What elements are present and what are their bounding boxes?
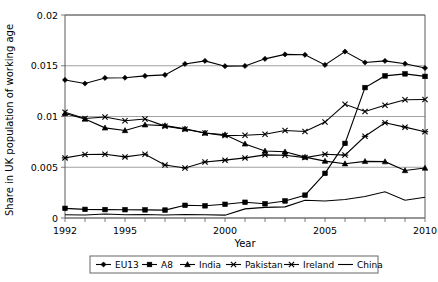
data-point-marker [322, 119, 327, 124]
y-tick-label: 0.015 [31, 60, 58, 71]
x-axis-title: Year [233, 238, 256, 249]
y-axis-tick-labels: 00.0050.010.0150.02 [31, 10, 58, 224]
data-point-marker [243, 200, 248, 205]
data-point-marker [323, 171, 328, 176]
legend-label: EU13 [115, 260, 139, 270]
data-point-marker [122, 154, 128, 159]
data-point-marker [222, 64, 227, 69]
data-point-marker [343, 141, 348, 146]
data-point-marker [383, 74, 388, 79]
chart-container: 00.0050.010.0150.02 19921995200020052010… [0, 0, 438, 282]
data-point-marker [122, 75, 127, 80]
data-point-marker [262, 56, 267, 61]
data-point-marker [102, 152, 108, 157]
data-point-marker [103, 207, 108, 212]
data-point-marker [242, 63, 247, 68]
data-point-marker [282, 52, 287, 57]
data-point-marker [142, 152, 148, 157]
data-point-marker [382, 120, 388, 125]
x-tick-label: 2005 [313, 225, 337, 236]
y-axis-title: Share in UK population of working age [4, 24, 15, 216]
data-point-marker [162, 72, 167, 77]
data-point-marker [82, 81, 87, 86]
data-point-marker [182, 165, 188, 170]
data-point-marker [422, 165, 428, 170]
gridlines [65, 15, 425, 218]
data-point-marker [342, 152, 348, 157]
data-point-marker [222, 158, 228, 163]
data-point-marker [303, 193, 308, 198]
data-point-marker [202, 58, 207, 63]
x-tick-label: 1995 [113, 225, 137, 236]
y-tick-label: 0.005 [31, 162, 58, 173]
chart-legend: EU13A8IndiaPakistanIrelandChina [90, 256, 383, 273]
legend-marker [147, 262, 152, 267]
x-axis-tick-labels: 19921995200020052010 [53, 225, 437, 236]
data-point-marker [183, 203, 188, 208]
x-tick-label: 2010 [413, 225, 437, 236]
data-point-marker [403, 72, 408, 77]
y-tick-label: 0 [52, 213, 58, 224]
data-point-marker [63, 206, 68, 211]
series-eu13 [62, 49, 427, 86]
data-point-marker [423, 74, 428, 79]
data-point-marker [62, 77, 67, 82]
data-point-marker [382, 58, 387, 63]
data-point-marker [203, 204, 208, 209]
data-point-marker [223, 202, 228, 207]
legend-label: China [357, 260, 383, 270]
legend-label: A8 [161, 260, 173, 270]
data-point-marker [83, 207, 88, 212]
data-point-marker [402, 125, 408, 130]
data-point-marker [162, 162, 168, 167]
x-axis-ticks [65, 218, 425, 222]
data-point-marker [322, 152, 328, 157]
legend-label: Pakistan [245, 260, 283, 270]
legend-label: Ireland [303, 260, 334, 270]
data-series [62, 49, 428, 215]
x-tick-label: 2000 [213, 225, 237, 236]
data-point-marker [263, 201, 268, 206]
data-point-marker [202, 159, 208, 164]
series-pakistan [62, 97, 427, 138]
data-point-marker [242, 155, 248, 160]
x-tick-label: 1992 [53, 225, 77, 236]
data-point-marker [102, 75, 107, 80]
data-point-marker [342, 102, 347, 107]
data-point-marker [362, 134, 368, 139]
line-chart: 00.0050.010.0150.02 19921995200020052010… [0, 0, 438, 282]
data-point-marker [82, 152, 88, 157]
data-point-marker [422, 65, 427, 70]
data-point-marker [142, 73, 147, 78]
data-point-marker [123, 207, 128, 212]
y-tick-label: 0.01 [37, 111, 58, 122]
data-point-marker [363, 85, 368, 90]
legend-label: India [199, 260, 221, 270]
data-point-marker [362, 60, 367, 65]
data-point-marker [143, 208, 148, 213]
data-point-marker [283, 199, 288, 204]
y-tick-label: 0.02 [37, 10, 58, 21]
series-india [62, 111, 428, 173]
data-point-marker [302, 52, 307, 57]
data-point-marker [163, 208, 168, 213]
